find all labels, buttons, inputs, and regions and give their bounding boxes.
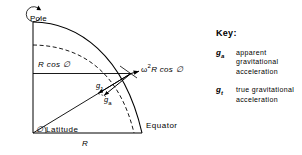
key-desc-apparent: apparent gravitational acceleration [236, 48, 302, 76]
omega-term-rest: R cos ∅ [151, 65, 183, 74]
key-desc-true: true gravitational acceleration [236, 85, 302, 104]
key-entry-apparent: ga apparent gravitational acceleration [216, 48, 302, 76]
radius-label: R [82, 140, 88, 148]
g-apparent-label: ga [104, 96, 112, 106]
g-apparent-subscript: a [108, 100, 111, 106]
key-symbol-true: gt [216, 85, 236, 96]
pole-label: Pole [30, 15, 47, 23]
centrifugal-term-label: ω2R cos ∅ [141, 63, 183, 74]
g-true-subscript: 1 [100, 86, 103, 92]
r-cos-phi-label: R cos ∅ [38, 61, 70, 69]
key-legend: Key: ga apparent gravitational accelerat… [216, 28, 302, 113]
key-symbol-apparent: ga [216, 48, 236, 59]
equator-label: Equator [146, 122, 178, 130]
key-title: Key: [216, 28, 302, 38]
sphere-reference-dashed [33, 45, 134, 133]
key-symbol-apparent-sub: a [221, 53, 224, 59]
g-apparent-vector [104, 74, 131, 96]
key-entry-true: gt true gravitational acceleration [216, 85, 302, 104]
latitude-angle-symbol: ∅ [36, 126, 43, 134]
key-symbol-true-sub: t [221, 90, 223, 96]
latitude-label: Latitude [46, 126, 78, 134]
diagram-page: Pole R cos ∅ ω2R cos ∅ g1 ga ∅ Latitude … [0, 0, 302, 155]
centrifugal-vector [131, 71, 139, 73]
g-true-label: g1 [96, 82, 104, 92]
